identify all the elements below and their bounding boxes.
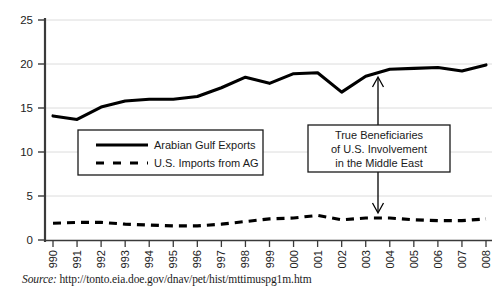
- chart-legend[interactable]: Arabian Gulf Exports U.S. Imports from A…: [78, 130, 263, 175]
- x-tick-label: 1994: [143, 250, 155, 268]
- x-tick-label: 2005: [408, 250, 420, 268]
- y-tick-label: 25: [20, 14, 33, 26]
- x-tick-label: 2001: [312, 250, 324, 268]
- x-tick-label: 1997: [215, 250, 227, 268]
- x-tick-label: 1991: [71, 250, 83, 268]
- x-tick-label: 1998: [239, 250, 251, 268]
- source-url: http://tonto.eia.doe.gov/dnav/pet/hist/m…: [59, 273, 311, 285]
- annotation-line-3: in the Middle East: [335, 157, 422, 169]
- x-tick-label: 2002: [336, 250, 348, 268]
- figure-container: 25 20 15 10 5 0 199019911992199319941995…: [0, 0, 504, 295]
- x-tick-label: 2008: [480, 250, 492, 268]
- annotation-line-2: of U.S. Involvement: [331, 143, 427, 155]
- x-tick-label: 2007: [456, 250, 468, 268]
- y-tick-label: 20: [20, 58, 33, 70]
- x-tick-label: 2003: [360, 250, 372, 268]
- y-tick-label: 10: [20, 146, 33, 158]
- x-tick-label: 2000: [288, 250, 300, 268]
- x-tick-label: 1996: [191, 250, 203, 268]
- x-tick-label: 1993: [119, 250, 131, 268]
- series-arabian-gulf-exports: [53, 65, 486, 120]
- x-axis-labels: 1990199119921993199419951996199719981999…: [47, 240, 492, 268]
- x-tick-label: 1999: [264, 250, 276, 268]
- legend-label-us-imports-from-ag: U.S. Imports from AG: [154, 157, 259, 169]
- y-tick-label: 0: [27, 234, 33, 246]
- x-tick-label: 1995: [167, 250, 179, 268]
- x-tick-label: 2004: [384, 250, 396, 268]
- series-us-imports-from-ag: [53, 215, 486, 226]
- y-tick-label: 5: [27, 190, 33, 202]
- source-label: Source:: [22, 273, 57, 285]
- y-tick-label: 15: [20, 102, 33, 114]
- x-tick-label: 1990: [47, 250, 59, 268]
- line-chart: 25 20 15 10 5 0 199019911992199319941995…: [0, 0, 504, 268]
- annotation-true-beneficiaries[interactable]: True Beneficiaries of U.S. Involvement i…: [308, 125, 450, 172]
- source-caption: Source: http://tonto.eia.doe.gov/dnav/pe…: [22, 273, 311, 285]
- annotation-line-1: True Beneficiaries: [335, 129, 424, 141]
- x-tick-label: 1992: [95, 250, 107, 268]
- legend-label-arabian-gulf-exports: Arabian Gulf Exports: [154, 139, 256, 151]
- x-tick-label: 2006: [432, 250, 444, 268]
- y-axis-labels: 25 20 15 10 5 0: [20, 14, 33, 246]
